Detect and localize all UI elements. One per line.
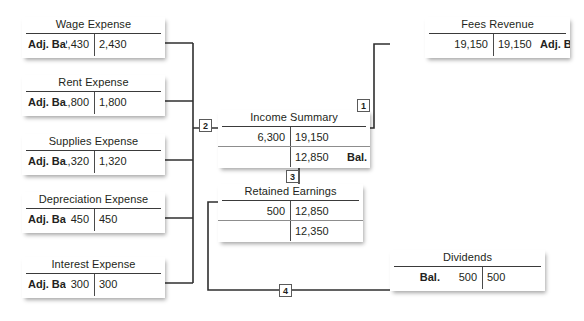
row-debit: 300	[66, 274, 94, 293]
account-title: Income Summary	[218, 110, 370, 126]
account-title: Wage Expense	[22, 17, 165, 33]
account-wage-expense: Wage Expense Adj. Bal. 2,430 2,430	[22, 17, 165, 58]
row-credit: 1,320	[94, 151, 139, 170]
row-debit	[218, 147, 290, 166]
account-rows: Adj. Bal. 1,800 1,800	[22, 92, 165, 111]
account-title: Dividends	[390, 250, 545, 266]
row-debit: 1,320	[66, 151, 94, 170]
row-left-label: Adj. Bal.	[22, 209, 66, 228]
row-debit: 6,300	[218, 127, 290, 146]
step-marker-1: 1	[357, 99, 370, 112]
row-left-label: Adj. Bal.	[22, 151, 66, 170]
table-row: 19,150 19,150 Adj. Bal.	[425, 34, 570, 53]
row-credit: 500	[482, 267, 532, 286]
step-marker-2: 2	[199, 119, 212, 132]
account-interest-expense: Interest Expense Adj. Bal. 300 300	[22, 257, 165, 298]
account-fees-revenue: Fees Revenue 19,150 19,150 Adj. Bal.	[425, 17, 570, 58]
account-title: Interest Expense	[22, 257, 165, 273]
account-rows: Adj. Bal. 2,430 2,430	[22, 34, 165, 53]
account-title: Fees Revenue	[425, 17, 570, 33]
table-row: Bal. 500 500	[390, 267, 545, 286]
step-marker-label: 2	[203, 121, 208, 131]
account-title: Depreciation Expense	[22, 192, 165, 208]
diagram-canvas: Wage Expense Adj. Bal. 2,430 2,430 Rent …	[0, 0, 584, 321]
table-row: Adj. Bal. 300 300	[22, 274, 165, 293]
step-marker-4: 4	[279, 284, 292, 297]
account-rows: 6,300 19,150 12,850 Bal.	[218, 127, 370, 166]
step-marker-label: 1	[361, 101, 366, 111]
account-title: Retained Earnings	[218, 184, 363, 200]
row-debit	[218, 221, 290, 240]
row-debit: 500	[218, 201, 290, 220]
account-retained-earnings: Retained Earnings 500 12,850 12,350	[218, 184, 363, 242]
account-income-summary: Income Summary 6,300 19,150 12,850 Bal.	[218, 110, 370, 168]
table-row: Adj. Bal. 450 450	[22, 209, 165, 228]
row-credit: 2,430	[94, 34, 139, 53]
row-left-label: Adj. Bal.	[22, 34, 66, 53]
table-row: 500 12,850	[218, 201, 363, 221]
table-row: Adj. Bal. 1,320 1,320	[22, 151, 165, 170]
row-credit: 300	[94, 274, 139, 293]
row-credit: 12,850	[290, 201, 356, 220]
account-rows: Adj. Bal. 1,320 1,320	[22, 151, 165, 170]
step-marker-label: 4	[283, 286, 288, 296]
step-marker-label: 3	[290, 172, 295, 182]
account-supplies-expense: Supplies Expense Adj. Bal. 1,320 1,320	[22, 134, 165, 175]
account-depreciation-expense: Depreciation Expense Adj. Bal. 450 450	[22, 192, 165, 233]
row-right-label	[340, 127, 368, 146]
account-rows: Adj. Bal. 300 300	[22, 274, 165, 293]
row-credit: 12,350	[290, 221, 356, 240]
table-row: 12,350	[218, 221, 363, 240]
account-rows: 19,150 19,150 Adj. Bal.	[425, 34, 570, 53]
row-credit: 12,850	[290, 147, 340, 166]
row-debit: 2,430	[66, 34, 94, 53]
row-credit: 19,150	[290, 127, 340, 146]
account-rows: Bal. 500 500	[390, 267, 545, 286]
row-left-label: Adj. Bal.	[22, 274, 66, 293]
row-left-label: Bal.	[390, 267, 446, 286]
account-title: Supplies Expense	[22, 134, 165, 150]
step-marker-3: 3	[286, 170, 299, 183]
row-credit: 450	[94, 209, 139, 228]
table-row: Adj. Bal. 1,800 1,800	[22, 92, 165, 111]
row-left-label: Adj. Bal.	[22, 92, 66, 111]
row-debit: 19,150	[425, 34, 493, 53]
row-debit: 450	[66, 209, 94, 228]
row-credit: 1,800	[94, 92, 139, 111]
account-title: Rent Expense	[22, 75, 165, 91]
table-row: 6,300 19,150	[218, 127, 370, 147]
row-debit: 1,800	[66, 92, 94, 111]
table-row: 12,850 Bal.	[218, 147, 370, 166]
account-dividends: Dividends Bal. 500 500	[390, 250, 545, 291]
row-debit: 500	[446, 267, 482, 286]
row-credit: 19,150	[493, 34, 533, 53]
account-rent-expense: Rent Expense Adj. Bal. 1,800 1,800	[22, 75, 165, 116]
account-rows: 500 12,850 12,350	[218, 201, 363, 240]
table-row: Adj. Bal. 2,430 2,430	[22, 34, 165, 53]
account-rows: Adj. Bal. 450 450	[22, 209, 165, 228]
row-right-label: Adj. Bal.	[533, 34, 570, 53]
row-right-label: Bal.	[340, 147, 368, 166]
